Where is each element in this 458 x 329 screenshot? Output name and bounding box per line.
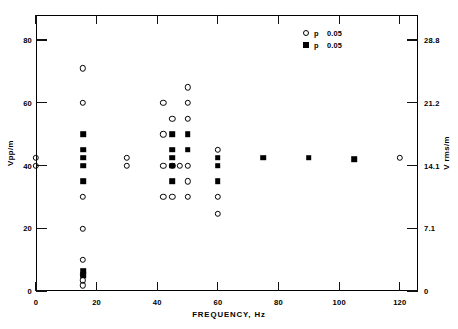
data-point-filled: [80, 131, 86, 137]
data-point-filled: [215, 155, 221, 161]
x-axis-tick-label: 100: [333, 298, 346, 307]
data-point-filled: [215, 178, 221, 184]
data-point-filled: [261, 155, 267, 161]
y-axis-right-tick-label: 0: [424, 287, 428, 296]
data-point-filled: [80, 147, 86, 153]
y-axis-right-tick-label: 21.2: [424, 98, 440, 107]
data-point-filled: [352, 156, 358, 162]
legend-value: 0.05: [327, 41, 342, 50]
data-point-filled: [80, 273, 86, 279]
legend-operator: p: [312, 41, 327, 50]
x-axis-tick: [339, 15, 340, 24]
x-axis-tick-label: 80: [274, 298, 283, 307]
filled-square-icon: [300, 42, 312, 48]
x-axis-tick: [157, 15, 158, 24]
y-axis-right-tick-label: 28.8: [424, 36, 440, 45]
data-point-filled: [185, 131, 191, 137]
x-axis-tick: [217, 282, 218, 291]
scatter-plot-figure: 02040608010012002040608007.114.121.228.8…: [0, 0, 458, 329]
x-axis-tick: [96, 282, 97, 291]
x-axis-tick: [157, 282, 158, 291]
x-axis-tick: [35, 15, 36, 24]
x-axis-tick: [399, 15, 400, 24]
x-axis-tick-label: 60: [213, 298, 222, 307]
y-axis-left-tick-label: 0: [13, 287, 32, 296]
y-axis-left-tick: [36, 39, 47, 40]
y-axis-right-tick: [407, 102, 418, 103]
y-axis-right-tick-label: 14.1: [424, 161, 440, 170]
x-axis-title: FREQUENCY, Hz: [192, 310, 266, 319]
y-axis-right-tick: [407, 228, 418, 229]
data-point-filled: [306, 155, 312, 161]
legend-item: p0.05: [300, 27, 342, 39]
y-axis-title-right: V rms/m: [442, 136, 451, 170]
legend-item: p0.05: [300, 39, 342, 51]
y-axis-left-tick-label: 80: [13, 36, 32, 45]
data-point-filled: [170, 131, 176, 137]
data-point-filled: [170, 163, 176, 169]
data-point-filled: [80, 163, 86, 169]
x-axis-tick-label: 0: [34, 298, 38, 307]
x-axis-tick: [339, 282, 340, 291]
data-point-filled: [185, 147, 191, 153]
y-axis-right-tick: [407, 290, 418, 291]
x-axis-tick: [399, 282, 400, 291]
y-axis-title-left: Vpp/m: [6, 140, 15, 166]
y-axis-left-tick: [36, 102, 47, 103]
y-axis-right-tick-label: 7.1: [424, 224, 435, 233]
data-point-filled: [80, 178, 86, 184]
y-axis-left-tick-label: 60: [13, 98, 32, 107]
legend-value: 0.05: [327, 29, 342, 38]
data-point-filled: [170, 147, 176, 153]
x-axis-tick-label: 40: [153, 298, 162, 307]
y-axis-right-tick: [407, 39, 418, 40]
plot-area: [36, 15, 418, 291]
x-axis-tick: [96, 15, 97, 24]
data-point-filled: [170, 155, 176, 161]
open-circle-icon: [300, 30, 312, 36]
x-axis-tick: [217, 15, 218, 24]
data-point-filled: [80, 155, 86, 161]
x-axis-tick: [278, 15, 279, 24]
y-axis-left-tick-label: 20: [13, 224, 32, 233]
legend-operator: p: [312, 29, 327, 38]
y-axis-left-tick: [36, 228, 47, 229]
y-axis-left-tick: [36, 290, 47, 291]
data-point-filled: [215, 163, 221, 169]
y-axis-left-tick-label: 40: [13, 161, 32, 170]
legend: p0.05p0.05: [300, 27, 342, 51]
x-axis-tick: [278, 282, 279, 291]
x-axis-tick-label: 120: [393, 298, 406, 307]
y-axis-right-tick: [407, 165, 418, 166]
x-axis-tick-label: 20: [92, 298, 101, 307]
data-point-filled: [170, 178, 176, 184]
